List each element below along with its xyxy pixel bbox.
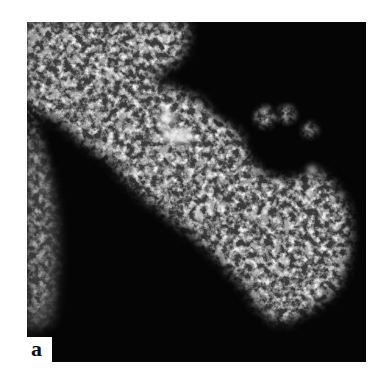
fluorescence-signal bbox=[27, 22, 366, 362]
panel-label: a bbox=[31, 336, 42, 362]
micrograph-image bbox=[27, 22, 366, 362]
